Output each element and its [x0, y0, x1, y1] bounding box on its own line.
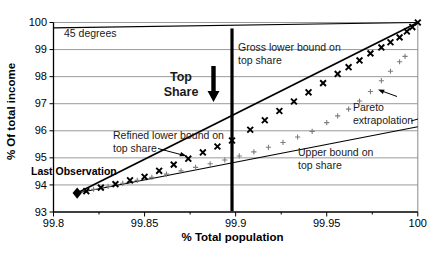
x-tick-label: 99.9	[225, 217, 246, 229]
label-pareto-extrapolation: Pareto extrapolation	[353, 101, 417, 127]
x-tick-label: 99.8	[43, 217, 64, 229]
y-tick-label: 94	[35, 179, 47, 191]
label-45-degrees: 45 degrees	[64, 27, 117, 40]
x-tick-label: 99.95	[313, 217, 341, 229]
x-tick-label: 100	[409, 217, 427, 229]
y-tick-label: 98	[35, 70, 47, 82]
x-tick-label: 99.85	[131, 217, 159, 229]
y-tick-label: 97	[35, 97, 47, 109]
label-refined-lower-bound: Refined lower bound on top share	[113, 129, 243, 155]
y-tick-label: 95	[35, 151, 47, 163]
label-last-observation: Last Observation	[31, 165, 117, 178]
y-axis-title: % Of total income	[5, 32, 18, 192]
x-axis-title: % Total population	[150, 231, 315, 244]
y-tick-label: 96	[35, 124, 47, 136]
y-tick-label: 99	[35, 43, 47, 55]
series-last-observation	[73, 187, 82, 198]
label-gross-lower-bound: Gross lower bound on top share	[238, 41, 368, 67]
label-upper-bound: Upper bound on top share	[298, 146, 408, 172]
label-top-share: Top Share	[155, 70, 207, 99]
top-share-arrow-icon	[208, 66, 220, 102]
y-tick-label: 100	[29, 16, 47, 28]
chart-figure: 9394959697989910099.899.8599.999.95100 4…	[0, 0, 434, 260]
last-observation-marker	[73, 187, 82, 198]
